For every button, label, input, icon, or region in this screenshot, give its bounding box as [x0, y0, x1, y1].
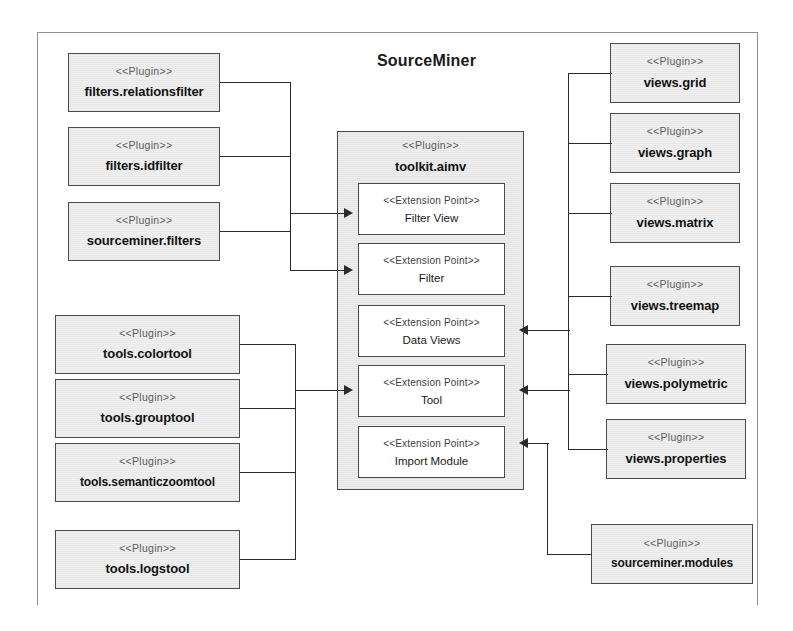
connector-modules-stub [547, 554, 592, 555]
plugin-box-tools-semanticzoomtool[interactable]: <<Plugin>> tools.semanticzoomtool [55, 443, 240, 502]
plugin-box-views-properties[interactable]: <<Plugin>> views.properties [606, 419, 746, 479]
connector-views-properties-stub [568, 449, 608, 450]
connector-tools-colortool-stub [240, 344, 295, 345]
extension-point-data-views[interactable]: <<Extension Point>> Data Views [358, 305, 505, 357]
plugin-box-views-treemap[interactable]: <<Plugin>> views.treemap [610, 266, 740, 326]
arrowhead-filter [344, 265, 353, 275]
connector-filters-relationsfilter-stub [220, 82, 290, 83]
plugin-name-label: views.matrix [637, 216, 714, 230]
connector-filters-bus [290, 82, 291, 232]
plugin-box-tools-logstool[interactable]: <<Plugin>> tools.logstool [55, 530, 240, 589]
connector-filters-drop [290, 231, 291, 270]
extension-point-name: Import Module [395, 455, 469, 467]
stereotype-label: <<Plugin>> [647, 196, 704, 208]
connector-views-matrix-stub [568, 213, 612, 214]
stereotype-label: <<Plugin>> [119, 543, 176, 555]
extension-point-stereotype: <<Extension Point>> [383, 317, 480, 328]
stereotype-label: <<Plugin>> [647, 126, 704, 138]
stereotype-label: <<Plugin>> [644, 538, 701, 550]
plugin-name-label: views.properties [626, 452, 727, 466]
arrowhead-filter-view [344, 208, 353, 218]
plugin-name-label: views.polymetric [624, 377, 727, 391]
stereotype-label: <<Plugin>> [338, 140, 523, 152]
stereotype-label: <<Plugin>> [119, 328, 176, 340]
plugin-box-views-polymetric[interactable]: <<Plugin>> views.polymetric [606, 344, 746, 404]
extension-point-tool[interactable]: <<Extension Point>> Tool [358, 365, 505, 417]
plugin-box-filters-relationsfilter[interactable]: <<Plugin>> filters.relationsfilter [68, 53, 220, 112]
plugin-name-label: toolkit.aimv [338, 160, 523, 174]
plugin-box-views-matrix[interactable]: <<Plugin>> views.matrix [610, 183, 740, 243]
arrowhead-import-module [519, 438, 528, 448]
plugin-name-label: views.graph [638, 146, 712, 160]
plugin-name-label: filters.idfilter [105, 159, 182, 173]
diagram-title: SourceMiner [377, 52, 557, 70]
extension-point-filter[interactable]: <<Extension Point>> Filter [358, 243, 505, 295]
connector-sourceminer-filters-stub [220, 231, 290, 232]
plugin-name-label: tools.colortool [103, 347, 192, 361]
extension-point-name: Tool [421, 394, 442, 406]
plugin-name-label: sourceminer.modules [611, 557, 733, 570]
plugin-box-sourceminer-filters[interactable]: <<Plugin>> sourceminer.filters [68, 202, 220, 261]
plugin-name-label: sourceminer.filters [87, 234, 201, 248]
plugin-box-filters-idfilter[interactable]: <<Plugin>> filters.idfilter [68, 127, 220, 186]
plugin-box-views-grid[interactable]: <<Plugin>> views.grid [610, 43, 740, 103]
connector-tools-grouptool-stub [240, 408, 295, 409]
extension-point-import-module[interactable]: <<Extension Point>> Import Module [358, 426, 505, 478]
plugin-box-views-graph[interactable]: <<Plugin>> views.graph [610, 113, 740, 173]
arrowhead-tool-left [344, 385, 353, 395]
stereotype-label: <<Plugin>> [647, 56, 704, 68]
connector-modules-riser [547, 443, 548, 555]
plugin-name-label: tools.logstool [106, 562, 190, 576]
stereotype-label: <<Plugin>> [648, 432, 705, 444]
extension-point-stereotype: <<Extension Point>> [383, 438, 480, 449]
stereotype-label: <<Plugin>> [116, 140, 173, 152]
connector-filters-idfilter-stub [220, 156, 290, 157]
stereotype-label: <<Plugin>> [116, 215, 173, 227]
plugin-name-label: views.treemap [631, 299, 719, 313]
plugin-box-sourceminer-modules[interactable]: <<Plugin>> sourceminer.modules [591, 524, 753, 584]
stereotype-label: <<Plugin>> [648, 357, 705, 369]
extension-point-name: Filter [419, 272, 445, 284]
connector-views-bus [568, 73, 569, 450]
extension-point-filter-view[interactable]: <<Extension Point>> Filter View [358, 183, 505, 235]
connector-filters-to-filter [290, 270, 346, 271]
connector-tools-bus [295, 344, 296, 560]
plugin-name-label: tools.semanticzoomtool [80, 476, 215, 489]
stereotype-label: <<Plugin>> [119, 456, 176, 468]
extension-point-stereotype: <<Extension Point>> [383, 195, 480, 206]
connector-modules-to-import-module [528, 443, 549, 444]
plugin-name-label: views.grid [644, 76, 707, 90]
container-header: <<Plugin>> toolkit.aimv [338, 140, 523, 174]
arrowhead-data-views [519, 325, 528, 335]
connector-views-to-data-views [528, 330, 570, 331]
stereotype-label: <<Plugin>> [116, 66, 173, 78]
stereotype-label: <<Plugin>> [647, 279, 704, 291]
stereotype-label: <<Plugin>> [119, 392, 176, 404]
diagram-canvas: SourceMiner <<Plugin>> filters.relations… [0, 0, 793, 631]
connector-filters-to-filter-view [290, 213, 346, 214]
extension-point-stereotype: <<Extension Point>> [383, 255, 480, 266]
connector-views-graph-stub [568, 143, 612, 144]
plugin-box-tools-colortool[interactable]: <<Plugin>> tools.colortool [55, 315, 240, 374]
plugin-name-label: filters.relationsfilter [84, 85, 203, 99]
connector-tools-to-tool [295, 390, 346, 391]
extension-point-stereotype: <<Extension Point>> [383, 377, 480, 388]
extension-point-name: Data Views [403, 334, 461, 346]
plugin-box-tools-grouptool[interactable]: <<Plugin>> tools.grouptool [55, 379, 240, 438]
plugin-container-toolkit-aimv[interactable]: <<Plugin>> toolkit.aimv <<Extension Poin… [337, 131, 524, 490]
connector-views-grid-stub [568, 73, 612, 74]
connector-views-to-tool [528, 390, 570, 391]
plugin-name-label: tools.grouptool [101, 411, 195, 425]
arrowhead-tool-right [519, 385, 528, 395]
connector-tools-semanticzoomtool-stub [240, 472, 295, 473]
extension-point-name: Filter View [405, 212, 458, 224]
connector-views-treemap-stub [568, 296, 612, 297]
connector-tools-logstool-stub [240, 559, 295, 560]
connector-views-polymetric-stub [568, 374, 608, 375]
